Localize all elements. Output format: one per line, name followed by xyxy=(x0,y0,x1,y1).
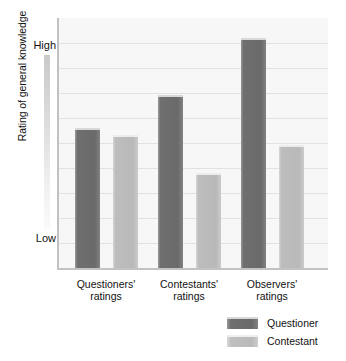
category-label-line1: Questioners' xyxy=(58,278,154,290)
category-label-questioners: Questioners' ratings xyxy=(58,278,154,302)
category-label-line2: ratings xyxy=(141,290,237,302)
legend: Questioner Contestant xyxy=(227,316,318,352)
legend-item-questioner: Questioner xyxy=(227,316,318,329)
bar-questioner-1 xyxy=(158,95,183,268)
bar-contestant-2 xyxy=(279,145,304,268)
gridline xyxy=(59,68,328,69)
category-label-line1: Contestants' xyxy=(141,278,237,290)
legend-swatch-questioner xyxy=(227,317,258,329)
category-label-line2: ratings xyxy=(58,290,154,302)
category-label-contestants: Contestants' ratings xyxy=(141,278,237,302)
gridline xyxy=(59,93,328,94)
bar-contestant-1 xyxy=(196,173,221,268)
y-axis-title: Rating of general knowledge xyxy=(16,0,28,176)
legend-label-questioner: Questioner xyxy=(267,317,318,329)
plot-area xyxy=(57,18,328,270)
gridline xyxy=(59,118,328,119)
bar-chart-figure: Rating of general knowledge High Low Que… xyxy=(0,0,346,361)
bar-questioner-2 xyxy=(241,38,266,268)
category-label-line1: Observers' xyxy=(224,278,320,290)
y-axis-label-low: Low xyxy=(10,232,56,244)
y-axis-gradient-strip xyxy=(44,55,50,230)
bar-questioner-0 xyxy=(75,128,100,268)
category-label-line2: ratings xyxy=(224,290,320,302)
legend-item-contestant: Contestant xyxy=(227,334,318,347)
legend-label-contestant: Contestant xyxy=(267,335,318,347)
category-label-observers: Observers' ratings xyxy=(224,278,320,302)
plot-inner xyxy=(59,18,328,268)
bar-contestant-0 xyxy=(113,135,138,268)
gridline xyxy=(59,43,328,44)
y-axis-label-high: High xyxy=(10,39,56,51)
legend-swatch-contestant xyxy=(227,335,258,347)
